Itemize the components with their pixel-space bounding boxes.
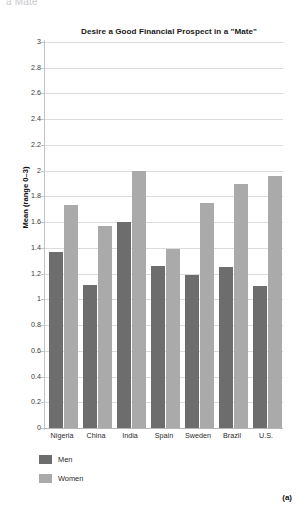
legend-item-men: Men bbox=[39, 452, 83, 467]
bar-women-sweden bbox=[200, 203, 214, 428]
bar-men-china bbox=[83, 285, 97, 428]
legend-item-women: Women bbox=[39, 471, 83, 486]
bar-women-spain bbox=[166, 249, 180, 428]
bar-group bbox=[185, 42, 214, 428]
y-axis-tick-label: 2.2 bbox=[31, 141, 41, 148]
y-axis-tick-label: 0.4 bbox=[31, 373, 41, 380]
y-axis-tick-label: 1.4 bbox=[31, 244, 41, 251]
bar-women-china bbox=[98, 226, 112, 428]
bar-men-india bbox=[117, 222, 131, 428]
bar-women-brazil bbox=[234, 184, 248, 428]
bar-men-us bbox=[253, 286, 267, 428]
bar-men-brazil bbox=[219, 267, 233, 428]
y-axis-tick-label: 0.8 bbox=[31, 321, 41, 328]
y-axis-tick-label: 0.6 bbox=[31, 347, 41, 354]
bar-group bbox=[151, 42, 180, 428]
chart-legend: Men Women bbox=[39, 452, 83, 490]
y-axis-tick-label: 1 bbox=[37, 295, 41, 302]
clipped-header-text: a Mate bbox=[6, 0, 38, 5]
bar-women-nigeria bbox=[64, 205, 78, 428]
y-axis-tick-label: 2.8 bbox=[31, 64, 41, 71]
panel-letter-label: (a) bbox=[282, 493, 292, 502]
bar-group bbox=[253, 42, 282, 428]
legend-label-women: Women bbox=[58, 474, 83, 483]
y-axis-tick-label: 3 bbox=[37, 38, 41, 45]
x-axis-category-labels: NigeriaChinaIndiaSpainSwedenBrazilU.S. bbox=[45, 431, 283, 445]
y-axis-tick-labels: 00.20.40.60.811.21.41.61.822.22.42.62.83 bbox=[0, 42, 41, 428]
y-axis-tick-label: 2 bbox=[37, 167, 41, 174]
bar-men-sweden bbox=[185, 275, 199, 428]
bar-series-container bbox=[45, 42, 283, 428]
category-label-us: U.S. bbox=[243, 431, 289, 440]
y-axis-tick-label: 1.8 bbox=[31, 192, 41, 199]
bar-group bbox=[219, 42, 248, 428]
women-color-swatch bbox=[39, 474, 52, 483]
men-color-swatch bbox=[39, 455, 52, 464]
y-axis-tick-label: 0.2 bbox=[31, 398, 41, 405]
bar-men-nigeria bbox=[49, 252, 63, 428]
y-axis-tick-label: 2.4 bbox=[31, 115, 41, 122]
x-axis-line bbox=[45, 428, 283, 429]
bar-women-india bbox=[132, 171, 146, 428]
legend-label-men: Men bbox=[58, 455, 72, 464]
bar-women-us bbox=[268, 176, 282, 428]
y-axis-tick-label: 2.6 bbox=[31, 89, 41, 96]
chart-title: Desire a Good Financial Prospect in a "M… bbox=[45, 27, 293, 36]
y-axis-tick-label: 1.2 bbox=[31, 270, 41, 277]
figure-panel: a Mate Desire a Good Financial Prospect … bbox=[0, 0, 299, 511]
bar-group bbox=[83, 42, 112, 428]
bar-group bbox=[117, 42, 146, 428]
y-axis-tick-label: 1.6 bbox=[31, 218, 41, 225]
bar-men-spain bbox=[151, 266, 165, 428]
bar-group bbox=[49, 42, 78, 428]
